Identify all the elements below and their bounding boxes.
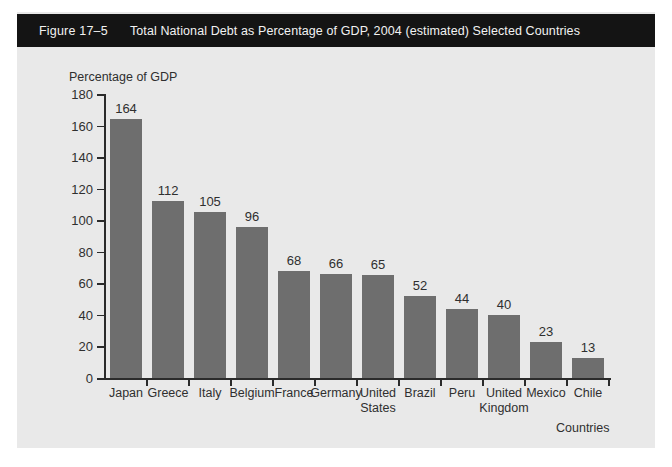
bar-value-label: 96 xyxy=(245,209,259,224)
category-label: Chile xyxy=(548,386,628,401)
y-tick-label: 140 xyxy=(71,150,93,165)
x-tick-mark xyxy=(524,379,526,386)
x-tick-mark xyxy=(566,379,568,386)
bar-value-label: 40 xyxy=(497,297,511,312)
bar-value-label: 13 xyxy=(581,340,595,355)
figure-number: Figure 17–5 xyxy=(39,24,108,38)
x-tick-mark xyxy=(188,379,190,386)
y-tick-mark xyxy=(97,252,104,254)
y-tick-mark xyxy=(97,189,104,191)
x-tick-mark xyxy=(440,379,442,386)
y-tick-label: 180 xyxy=(71,87,93,102)
x-axis-title: Countries xyxy=(556,421,610,435)
y-tick-mark xyxy=(97,126,104,128)
bar-value-label: 112 xyxy=(158,183,179,198)
x-tick-mark xyxy=(356,379,358,386)
category-label-line: States xyxy=(338,401,418,416)
y-tick-mark xyxy=(97,283,104,285)
x-tick-mark xyxy=(482,379,484,386)
bar: 23 xyxy=(530,342,562,378)
y-tick-label: 120 xyxy=(71,181,93,196)
bar-value-label: 164 xyxy=(115,101,137,116)
bar: 66 xyxy=(320,274,352,378)
y-tick-label: 80 xyxy=(79,244,93,259)
bar: 65 xyxy=(362,275,394,378)
x-tick-mark xyxy=(314,379,316,386)
bar-value-label: 68 xyxy=(287,253,301,268)
bar-value-label: 44 xyxy=(455,291,469,306)
bar: 112 xyxy=(152,201,184,378)
y-tick-mark xyxy=(97,378,104,380)
y-axis-line xyxy=(104,94,106,378)
bar: 96 xyxy=(236,227,268,378)
y-tick-mark xyxy=(97,94,104,96)
bar-value-label: 23 xyxy=(539,324,553,339)
x-tick-mark xyxy=(398,379,400,386)
bar: 40 xyxy=(488,315,520,378)
bar-value-label: 52 xyxy=(413,278,427,293)
x-tick-mark xyxy=(608,379,610,386)
x-tick-mark xyxy=(230,379,232,386)
x-tick-mark xyxy=(146,379,148,386)
bar-value-label: 65 xyxy=(371,257,385,272)
category-label-line: Chile xyxy=(548,386,628,401)
bar: 164 xyxy=(110,119,142,378)
y-tick-mark xyxy=(97,157,104,159)
x-tick-mark xyxy=(272,379,274,386)
bar: 13 xyxy=(572,358,604,379)
figure-caption-bar: Figure 17–5 Total National Debt as Perce… xyxy=(17,14,655,47)
bar: 68 xyxy=(278,271,310,378)
y-tick-label: 40 xyxy=(79,307,93,322)
plot-area: 020406080100120140160180 164112105966866… xyxy=(104,94,610,378)
y-axis-title: Percentage of GDP xyxy=(69,70,177,84)
y-tick-mark xyxy=(97,315,104,317)
y-tick-label: 0 xyxy=(86,371,93,386)
y-tick-label: 100 xyxy=(71,213,93,228)
y-tick-mark xyxy=(97,346,104,348)
category-label-line: Kingdom xyxy=(464,401,544,416)
y-tick-mark xyxy=(97,220,104,222)
y-tick-label: 60 xyxy=(79,276,93,291)
bar-value-label: 105 xyxy=(199,194,221,209)
bar-value-label: 66 xyxy=(329,256,343,271)
figure-title: Total National Debt as Percentage of GDP… xyxy=(130,24,580,38)
y-tick-label: 20 xyxy=(79,339,93,354)
bar: 44 xyxy=(446,309,478,378)
bar: 52 xyxy=(404,296,436,378)
figure-container: Figure 17–5 Total National Debt as Perce… xyxy=(0,0,672,467)
y-tick-label: 160 xyxy=(71,118,93,133)
bar: 105 xyxy=(194,212,226,378)
